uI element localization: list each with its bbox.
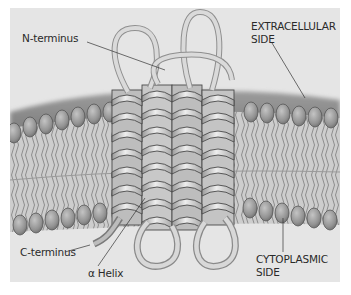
diagram-panel: N-terminus EXTRACELLULAR SIDE C-terminus…: [10, 8, 340, 282]
extracellular-label-line1: EXTRACELLULAR: [251, 20, 336, 32]
membrane-protein-illustration: [10, 8, 340, 282]
alpha-helix-label: α Helix: [88, 267, 123, 279]
n-terminus-label: N-terminus: [22, 32, 78, 44]
alpha-helix-bundle: [112, 85, 234, 230]
extracellular-label-line2: SIDE: [251, 33, 275, 45]
c-terminus-label: C-terminus: [20, 246, 76, 258]
cytoplasmic-label-line2: SIDE: [256, 266, 280, 278]
cytoplasmic-label-line1: CYTOPLASMIC: [256, 253, 328, 265]
extracellular-loops: [115, 12, 232, 92]
